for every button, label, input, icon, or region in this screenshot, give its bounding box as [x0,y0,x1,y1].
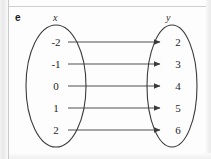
range-node-1: 2 [166,37,190,48]
range-node-5: 6 [166,125,190,136]
domain-node-3: 0 [44,81,68,92]
domain-node-1: -2 [44,37,68,48]
domain-node-5: 2 [44,125,68,136]
domain-node-4: 1 [44,103,68,114]
range-node-4: 5 [166,103,190,114]
range-node-3: 4 [166,81,190,92]
domain-node-2: -1 [44,59,68,70]
range-node-2: 3 [166,59,190,70]
figure-canvas: e x y -2 -1 0 1 2 2 3 4 5 6 [0,0,211,159]
